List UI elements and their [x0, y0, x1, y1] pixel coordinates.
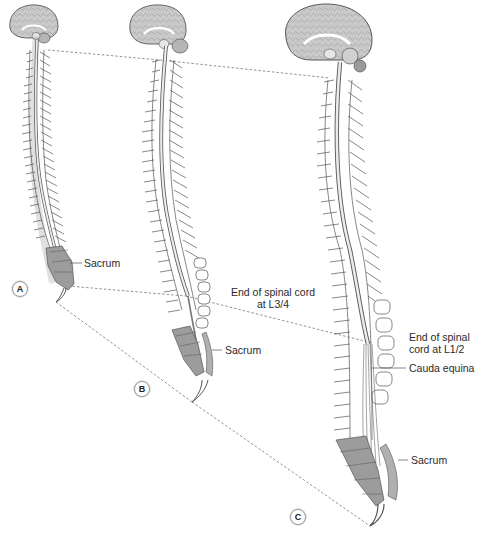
diagram-canvas	[0, 0, 480, 534]
label-end-of-cord-c-line1: End of spinal	[409, 331, 470, 343]
vertebrae-a	[22, 50, 66, 248]
spine-stage-a	[10, 5, 74, 302]
sacrum-a	[46, 246, 74, 290]
vertebrae-b	[142, 60, 199, 312]
connector-tip-ab	[56, 302, 192, 402]
label-sacrum-c: Sacrum	[411, 454, 447, 466]
label-end-of-cord-b-line2: at L3/4	[218, 298, 328, 310]
sacrum-c	[336, 436, 384, 506]
label-end-of-cord-c: End of spinal cord at L1/2	[409, 331, 470, 355]
connector-tip-bc	[192, 402, 370, 526]
spine-stage-c	[286, 4, 398, 526]
label-end-of-cord-b-line1: End of spinal cord	[218, 286, 328, 298]
vertebrae-c	[317, 80, 382, 440]
label-cauda-equina: Cauda equina	[409, 362, 474, 374]
lumbar-bodies-c	[372, 300, 394, 404]
lumbar-bodies-b	[194, 258, 210, 328]
label-end-of-cord-c-line2: cord at L1/2	[409, 343, 470, 355]
stage-badge-b: B	[134, 381, 150, 397]
label-sacrum-b: Sacrum	[225, 344, 261, 356]
label-end-of-cord-b: End of spinal cord at L3/4	[218, 286, 328, 310]
stage-badge-c: C	[290, 509, 306, 525]
connector-top-ab	[48, 50, 160, 60]
stage-badge-a: A	[12, 281, 28, 297]
brain-b	[130, 5, 188, 53]
connector-top-bc	[160, 60, 330, 78]
label-sacrum-a: Sacrum	[84, 257, 120, 269]
spinal-development-figure: Sacrum End of spinal cord at L3/4 Sacrum…	[0, 0, 480, 534]
brain-c	[286, 4, 372, 72]
